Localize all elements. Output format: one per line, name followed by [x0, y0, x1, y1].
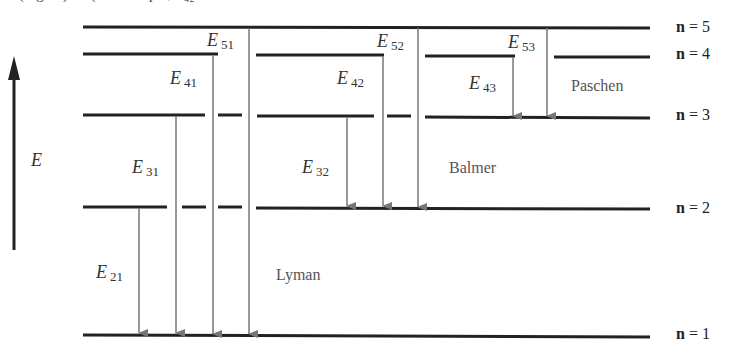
level-label-n4: n = 4: [676, 45, 710, 63]
level-label-n5: n = 5: [676, 18, 710, 36]
series-label-paschen: Paschen: [571, 77, 623, 95]
transition-label-e52: E52: [377, 31, 404, 54]
series-label-balmer: Balmer: [449, 159, 496, 177]
transition-label-e21: E21: [96, 262, 123, 285]
level-line-n1: [83, 335, 650, 337]
transition-label-e32: E32: [302, 157, 329, 180]
level-line-n5: [83, 27, 650, 28]
transition-label-e31: E31: [132, 157, 159, 180]
energy-axis-arrow: [8, 56, 20, 250]
transition-label-e43: E43: [469, 73, 496, 96]
level-label-n2: n = 2: [676, 199, 710, 217]
energy-axis-label: E: [31, 150, 42, 171]
level-line-n4: [83, 54, 650, 57]
transition-label-e53: E53: [508, 32, 535, 55]
series-label-lyman: Lyman: [276, 266, 320, 284]
energy-level-diagram: [0, 0, 742, 356]
transition-label-e41: E41: [170, 68, 197, 91]
transition-label-e42: E42: [337, 68, 364, 91]
level-label-n3: n = 3: [676, 106, 710, 124]
level-label-n1: n = 1: [676, 325, 710, 343]
transition-label-e51: E51: [207, 30, 234, 53]
level-line-n2: [83, 207, 650, 209]
level-line-n3: [83, 115, 650, 118]
